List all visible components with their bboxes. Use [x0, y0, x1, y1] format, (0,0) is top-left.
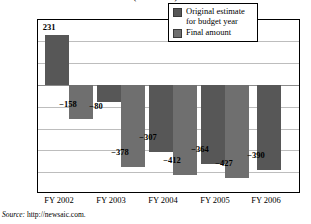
x-tick-fy2002: FY 2002	[30, 196, 88, 205]
value-label-fy2002-original: 231	[32, 23, 66, 32]
x-tick-fy2005: FY 2005	[186, 196, 244, 205]
source-note: Source: http://newsaic.com.	[2, 210, 86, 219]
legend-label-final-amount: Final amount	[186, 28, 231, 38]
source-url: http://newsaic.com.	[27, 210, 86, 219]
chart-title-clipped: (as of 2005)	[0, 0, 311, 7]
gridline-neg400	[38, 172, 299, 173]
legend-label-original-estimate: Original estimate for budget year	[186, 7, 245, 26]
source-prefix: Source:	[2, 210, 25, 219]
x-tick-fy2004: FY 2004	[134, 196, 192, 205]
value-label-fy2004-final: −412	[155, 156, 189, 165]
bar-fy2003-original	[97, 85, 121, 102]
legend-item-original-estimate: Original estimate for budget year	[173, 7, 254, 26]
x-tick-fy2003: FY 2003	[82, 196, 140, 205]
bar-fy2002-original	[45, 35, 69, 85]
value-label-fy2005-original: −364	[183, 145, 217, 154]
chart-legend: Original estimate for budget year Final …	[168, 3, 258, 42]
value-label-fy2004-original: −307	[131, 133, 165, 142]
legend-swatch-original-estimate-icon	[173, 8, 182, 17]
gridline-100	[38, 63, 299, 64]
value-label-fy2003-original: −80	[79, 102, 113, 111]
legend-item-final-amount: Final amount	[173, 28, 254, 38]
legend-swatch-final-amount-icon	[173, 29, 182, 38]
chart-title-text: (as of 2005)	[0, 0, 311, 2]
x-tick-fy2006: FY 2006	[237, 196, 295, 205]
value-label-fy2003-final: −378	[103, 148, 137, 157]
value-label-fy2006-original: −390	[239, 151, 273, 160]
value-label-fy2005-final: −427	[207, 159, 241, 168]
